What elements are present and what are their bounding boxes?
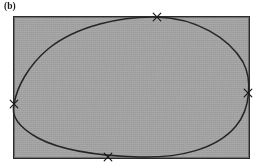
figure-canvas: [0, 0, 258, 165]
figure-panel: (b): [0, 0, 258, 165]
scan-grain-overlay: [14, 17, 249, 158]
